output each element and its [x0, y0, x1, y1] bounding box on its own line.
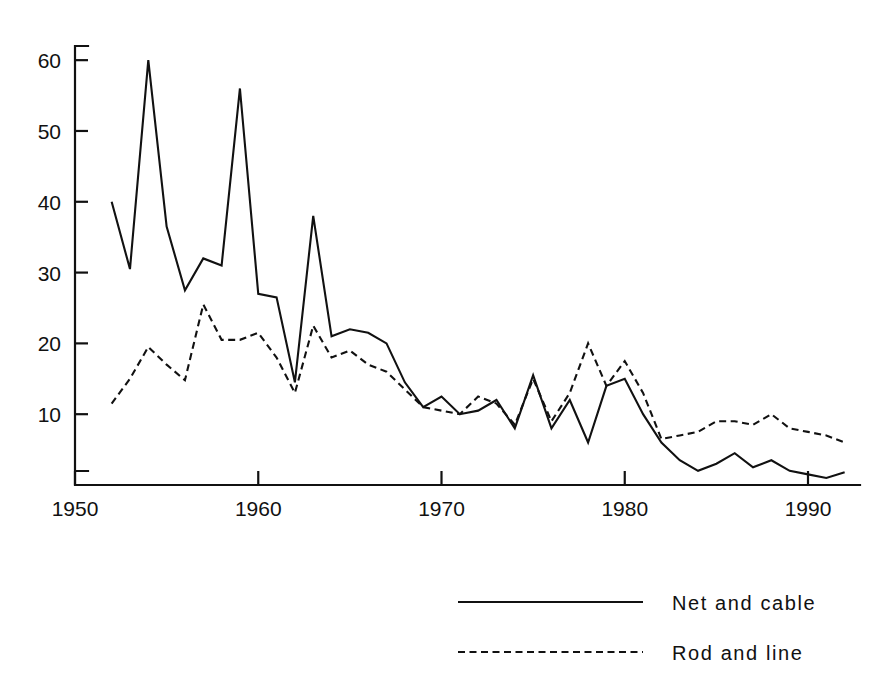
x-tick-label-1960: 1960 — [235, 497, 282, 520]
y-tick-label-10: 10 — [38, 403, 61, 426]
x-tick-label-1990: 1990 — [785, 497, 832, 520]
legend-label-rod-and-line: Rod and line — [672, 642, 804, 664]
y-tick-label-50: 50 — [38, 120, 61, 143]
y-tick-label-40: 40 — [38, 191, 61, 214]
legend-label-net-and-cable: Net and cable — [672, 592, 816, 614]
x-tick-label-1950: 1950 — [52, 497, 99, 520]
y-tick-label-30: 30 — [38, 262, 61, 285]
y-tick-label-20: 20 — [38, 332, 61, 355]
chart-figure: 102030405060 19501960197019801990 Net an… — [0, 0, 888, 696]
y-tick-label-60: 60 — [38, 49, 61, 72]
line-chart: 102030405060 19501960197019801990 Net an… — [0, 0, 888, 696]
x-tick-label-1980: 1980 — [601, 497, 648, 520]
x-tick-label-1970: 1970 — [418, 497, 465, 520]
